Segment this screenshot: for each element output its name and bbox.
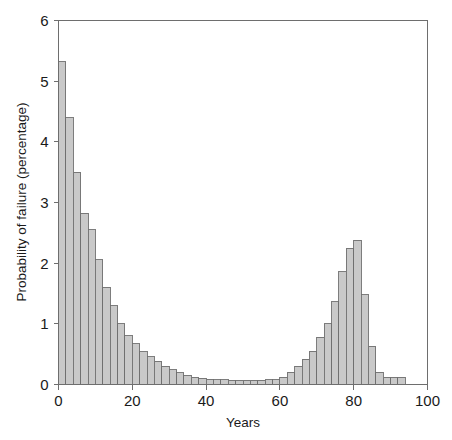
histogram-bar [228,380,235,384]
histogram-bar [383,377,390,384]
y-tick-label: 2 [40,255,48,272]
histogram-bar [332,302,339,385]
x-tick-label: 20 [124,392,141,409]
y-tick-labels: 0123456 [40,12,58,393]
histogram-bar [59,62,66,385]
histogram-bar [346,248,353,385]
histogram-bar [339,272,346,385]
histogram-bar [169,370,176,385]
y-tick-label: 6 [40,12,48,29]
x-tick-label: 80 [345,392,362,409]
histogram-bar [147,357,154,385]
histogram-bar [162,366,169,384]
histogram-bar [361,295,368,385]
histogram-bar [213,380,220,385]
histogram-bar [287,372,294,384]
histogram-bar [221,380,228,385]
histogram-bar [66,118,73,385]
histogram-bar [265,380,272,385]
y-tick-label: 1 [40,315,48,332]
histogram-bar [391,377,398,384]
histogram-bar [199,378,206,384]
x-tick-labels: 020406080100 [54,385,440,409]
histogram-bar [191,377,198,384]
histogram-bar [295,366,302,384]
histogram-bar [95,260,102,385]
histogram-bar [302,359,309,384]
bars-group [59,62,406,385]
histogram-bar [243,380,250,384]
histogram-bar [273,380,280,385]
histogram-bar [184,375,191,384]
histogram-bar [73,172,80,384]
y-tick-label: 4 [40,133,48,150]
histogram-bar [206,379,213,384]
histogram-bar [88,230,95,385]
histogram-bar [140,352,147,385]
x-tick-label: 100 [415,392,440,409]
histogram-bar [324,324,331,385]
histogram-bar [110,306,117,385]
y-tick-label: 5 [40,73,48,90]
histogram-bar [309,351,316,384]
histogram-bar [81,213,88,384]
histogram-figure: 020406080100 0123456 Years Probability o… [0,0,452,440]
histogram-bar [258,380,265,384]
histogram-bar [354,240,361,384]
histogram-bar [125,336,132,385]
histogram-bar [154,361,161,384]
histogram-bar [317,337,324,384]
histogram-bar [118,324,125,385]
y-axis-title: Probability of failure (percentage) [14,103,29,302]
histogram-bar [103,287,110,384]
histogram-bar [250,380,257,384]
y-tick-label: 0 [40,376,48,393]
histogram-bar [368,346,375,384]
y-tick-label: 3 [40,194,48,211]
histogram-bar [280,377,287,384]
x-axis-title: Years [226,415,260,430]
x-tick-label: 40 [198,392,215,409]
chart-canvas: 020406080100 0123456 Years Probability o… [0,0,452,440]
histogram-bar [177,373,184,385]
histogram-bar [236,380,243,384]
x-tick-label: 0 [54,392,62,409]
x-tick-label: 60 [272,392,289,409]
histogram-bar [398,377,405,384]
histogram-bar [376,372,383,384]
histogram-bar [132,344,139,385]
